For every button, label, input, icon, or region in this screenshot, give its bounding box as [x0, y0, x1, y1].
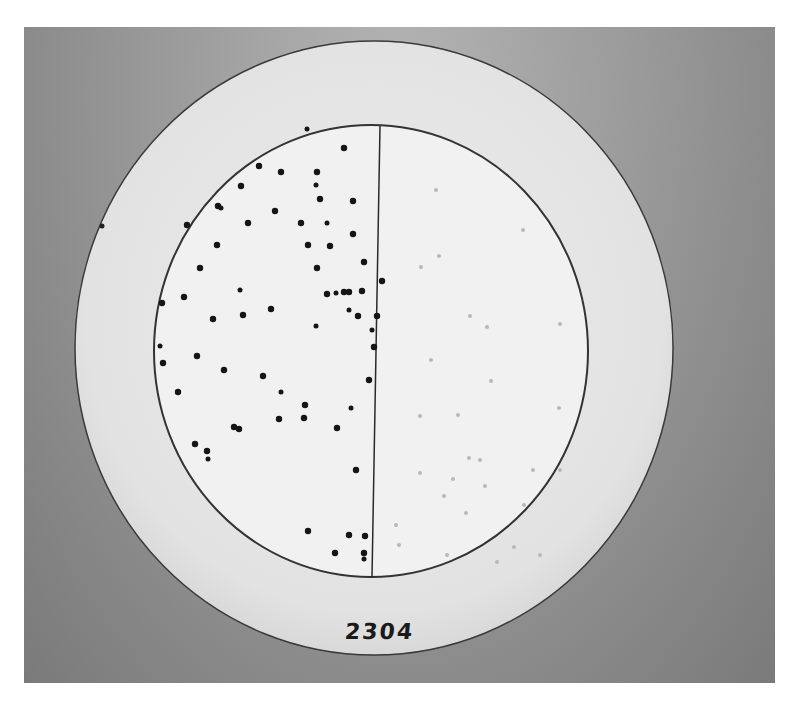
faint-spot: [558, 322, 562, 326]
faint-spot: [468, 314, 472, 318]
colony-dot: [362, 557, 367, 562]
colony-dot: [350, 198, 356, 204]
faint-spot: [557, 406, 561, 410]
colony-dot: [379, 278, 385, 284]
colony-dot: [305, 242, 311, 248]
colony-dot: [238, 288, 243, 293]
colony-dot: [314, 324, 319, 329]
colony-dot: [325, 221, 330, 226]
faint-spot: [521, 228, 525, 232]
colony-dot: [298, 220, 304, 226]
colony-dot: [276, 416, 282, 422]
edge-speck: [100, 224, 105, 229]
colony-dot: [268, 306, 274, 312]
faint-spot: [394, 523, 398, 527]
faint-spot: [531, 468, 535, 472]
colony-dot: [181, 294, 187, 300]
colony-dot: [260, 373, 266, 379]
faint-spot: [495, 560, 499, 564]
colony-dot: [353, 467, 359, 473]
faint-spot: [558, 468, 562, 472]
colony-dot: [206, 457, 211, 462]
faint-spot: [522, 503, 526, 507]
colony-dot: [158, 344, 163, 349]
colony-dot: [374, 313, 380, 319]
colony-dot: [219, 206, 224, 211]
colony-dot: [214, 242, 220, 248]
colony-dot: [371, 344, 377, 350]
faint-spot: [467, 456, 471, 460]
colony-dot: [184, 222, 190, 228]
faint-spot: [419, 265, 423, 269]
colony-dot: [231, 424, 237, 430]
colony-dot: [349, 406, 354, 411]
faint-spot: [538, 553, 542, 557]
faint-spot: [434, 188, 438, 192]
colony-dot: [334, 291, 339, 296]
faint-spot: [397, 543, 401, 547]
colony-dot: [359, 288, 365, 294]
faint-spot: [418, 471, 422, 475]
colony-dot: [279, 390, 284, 395]
colony-dot: [159, 300, 165, 306]
colony-dot: [332, 550, 338, 556]
colony-dot: [355, 313, 361, 319]
faint-spot: [456, 413, 460, 417]
colony-dot: [334, 425, 340, 431]
colony-dot: [324, 291, 330, 297]
colony-dot: [370, 328, 375, 333]
colony-dot: [256, 163, 262, 169]
colony-dot: [194, 353, 200, 359]
faint-spot: [445, 553, 449, 557]
colony-dot: [238, 183, 244, 189]
faint-spot: [478, 458, 482, 462]
colony-dot: [361, 550, 367, 556]
faint-spot: [464, 511, 468, 515]
petri-plate-graphic: [0, 0, 801, 708]
colony-dot: [175, 389, 181, 395]
colony-dot: [341, 145, 347, 151]
colony-dot: [204, 448, 210, 454]
colony-dot: [221, 367, 227, 373]
colony-dot: [210, 316, 216, 322]
faint-spot: [512, 545, 516, 549]
plate-label: 2304: [344, 619, 416, 644]
colony-dot: [305, 528, 311, 534]
faint-spot: [485, 325, 489, 329]
colony-dot: [240, 312, 246, 318]
colony-dot: [302, 402, 308, 408]
colony-dot: [317, 196, 323, 202]
colony-dot: [197, 265, 203, 271]
colony-dot: [305, 127, 310, 132]
colony-dot: [350, 231, 356, 237]
faint-spot: [489, 379, 493, 383]
faint-spot: [418, 414, 422, 418]
faint-spot: [437, 254, 441, 258]
faint-spot: [483, 484, 487, 488]
faint-spot: [442, 494, 446, 498]
faint-spot: [451, 477, 455, 481]
colony-dot: [314, 169, 320, 175]
colony-dot: [346, 532, 352, 538]
colony-dot: [278, 169, 284, 175]
colony-dot: [314, 265, 320, 271]
colony-dot: [361, 259, 367, 265]
faint-spot: [429, 358, 433, 362]
colony-dot: [192, 441, 198, 447]
colony-dot: [160, 360, 166, 366]
inner-plate-circle: [154, 125, 588, 577]
colony-dot: [245, 220, 251, 226]
colony-dot: [366, 377, 372, 383]
colony-dot: [327, 243, 333, 249]
colony-dot: [272, 208, 278, 214]
colony-dot: [362, 533, 368, 539]
colony-dot: [347, 308, 352, 313]
colony-dot: [314, 183, 319, 188]
colony-dot: [346, 289, 352, 295]
colony-dot: [301, 415, 307, 421]
